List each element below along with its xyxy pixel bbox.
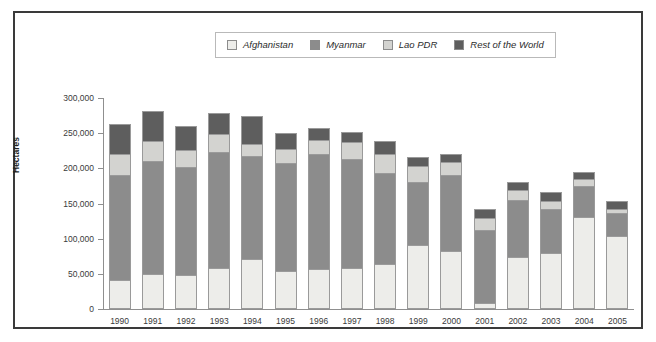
bar-segment-myanmar — [606, 213, 628, 236]
bar-segment-rest-of-the-world — [440, 154, 462, 162]
y-axis-tick-label: 200,000 — [15, 163, 94, 173]
bar-segment-lao-pdr — [109, 154, 131, 175]
bar-segment-afghanistan — [308, 269, 330, 309]
x-axis-label-1991: 1991 — [143, 316, 162, 326]
bar-1996[interactable] — [308, 128, 330, 309]
x-axis-label-1994: 1994 — [243, 316, 262, 326]
x-axis-label-2005: 2005 — [608, 316, 627, 326]
y-axis-tick-label: 150,000 — [15, 199, 94, 209]
bar-segment-myanmar — [175, 167, 197, 275]
bar-segment-myanmar — [341, 159, 363, 268]
y-axis-tick-label: 250,000 — [15, 128, 94, 138]
bar-segment-afghanistan — [374, 264, 396, 309]
bar-segment-lao-pdr — [440, 162, 462, 175]
x-axis-label-1996: 1996 — [309, 316, 328, 326]
x-axis-line — [103, 309, 634, 310]
bar-segment-afghanistan — [275, 271, 297, 309]
bar-1994[interactable] — [241, 116, 263, 309]
bar-segment-lao-pdr — [308, 140, 330, 155]
y-axis-tick — [98, 274, 103, 275]
bar-1995[interactable] — [275, 133, 297, 309]
legend-swatch-icon — [383, 40, 393, 50]
bar-segment-lao-pdr — [540, 201, 562, 209]
y-axis-line — [103, 98, 104, 310]
bar-segment-rest-of-the-world — [142, 111, 164, 141]
bar-1991[interactable] — [142, 111, 164, 309]
chart-frame: AfghanistanMyanmarLao PDRRest of the Wor… — [13, 11, 643, 329]
bar-segment-afghanistan — [341, 268, 363, 309]
bar-segment-rest-of-the-world — [540, 192, 562, 201]
bar-2000[interactable] — [440, 154, 462, 309]
bar-segment-lao-pdr — [341, 142, 363, 160]
bar-segment-lao-pdr — [474, 218, 496, 230]
bar-segment-afghanistan — [507, 257, 529, 309]
legend-label: Afghanistan — [243, 40, 293, 50]
bar-segment-myanmar — [407, 182, 429, 245]
bar-2004[interactable] — [573, 172, 595, 309]
bar-segment-rest-of-the-world — [308, 128, 330, 140]
bar-segment-rest-of-the-world — [175, 126, 197, 150]
legend-item-myanmar[interactable]: Myanmar — [310, 40, 366, 50]
y-axis-tick-label: 0 — [15, 304, 94, 314]
legend-label: Myanmar — [326, 40, 366, 50]
bar-1993[interactable] — [208, 113, 230, 309]
bar-segment-rest-of-the-world — [109, 124, 131, 154]
bar-segment-afghanistan — [109, 280, 131, 309]
x-axis-label-1992: 1992 — [177, 316, 196, 326]
bar-segment-afghanistan — [175, 275, 197, 309]
bar-2002[interactable] — [507, 182, 529, 309]
bar-segment-afghanistan — [606, 236, 628, 309]
bar-segment-lao-pdr — [275, 149, 297, 162]
bar-segment-myanmar — [142, 161, 164, 274]
legend-item-lao-pdr[interactable]: Lao PDR — [383, 40, 438, 50]
x-axis-label-2002: 2002 — [508, 316, 527, 326]
bar-segment-afghanistan — [208, 268, 230, 309]
x-axis-label-2004: 2004 — [575, 316, 594, 326]
y-axis-tick — [98, 309, 103, 310]
bar-segment-rest-of-the-world — [474, 209, 496, 217]
legend-item-rest-of-the-world[interactable]: Rest of the World — [454, 40, 543, 50]
y-axis-tick — [98, 239, 103, 240]
x-axis-label-2000: 2000 — [442, 316, 461, 326]
bar-segment-lao-pdr — [407, 166, 429, 182]
bar-1997[interactable] — [341, 132, 363, 309]
bar-segment-lao-pdr — [142, 141, 164, 161]
bar-segment-myanmar — [241, 156, 263, 259]
bar-segment-rest-of-the-world — [407, 157, 429, 166]
x-axis-label-1990: 1990 — [110, 316, 129, 326]
bar-segment-afghanistan — [440, 251, 462, 309]
bar-segment-lao-pdr — [175, 150, 197, 167]
bar-segment-myanmar — [275, 163, 297, 271]
bar-segment-afghanistan — [407, 245, 429, 309]
bar-segment-myanmar — [109, 175, 131, 281]
bar-segment-rest-of-the-world — [507, 182, 529, 190]
x-axis-label-1997: 1997 — [342, 316, 361, 326]
bar-segment-afghanistan — [540, 253, 562, 309]
y-axis-tick-label: 50,000 — [15, 269, 94, 279]
y-axis-tick-label: 300,000 — [15, 93, 94, 103]
bar-1999[interactable] — [407, 157, 429, 309]
bar-1998[interactable] — [374, 141, 396, 309]
bar-segment-myanmar — [208, 152, 230, 268]
bar-1990[interactable] — [109, 124, 131, 309]
bar-segment-myanmar — [474, 230, 496, 304]
bar-segment-afghanistan — [573, 217, 595, 309]
legend-swatch-icon — [454, 40, 464, 50]
legend-item-afghanistan[interactable]: Afghanistan — [227, 40, 293, 50]
x-axis-label-1999: 1999 — [409, 316, 428, 326]
bar-segment-afghanistan — [142, 274, 164, 309]
y-axis-tick — [98, 204, 103, 205]
bar-1992[interactable] — [175, 126, 197, 309]
legend-swatch-icon — [227, 40, 237, 50]
bar-segment-myanmar — [374, 173, 396, 264]
bar-2003[interactable] — [540, 192, 562, 309]
bar-2005[interactable] — [606, 201, 628, 309]
bar-segment-myanmar — [573, 186, 595, 217]
bar-segment-rest-of-the-world — [241, 116, 263, 143]
x-axis-label-1998: 1998 — [376, 316, 395, 326]
bar-segment-afghanistan — [241, 259, 263, 309]
x-axis-label-1995: 1995 — [276, 316, 295, 326]
bar-segment-myanmar — [540, 209, 562, 253]
bar-segment-lao-pdr — [374, 154, 396, 173]
bar-2001[interactable] — [474, 209, 496, 309]
